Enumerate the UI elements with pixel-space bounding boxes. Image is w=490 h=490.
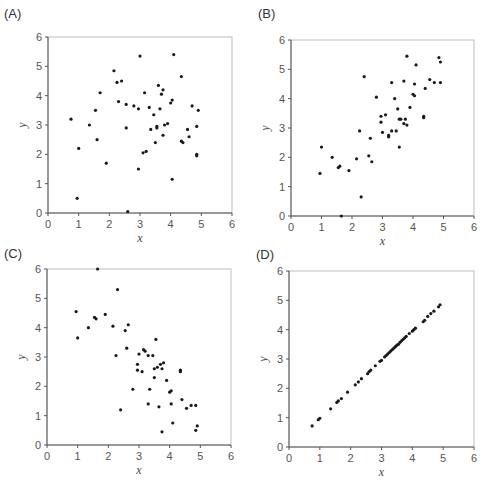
- data-point: [191, 104, 194, 107]
- data-point: [76, 336, 79, 339]
- data-point: [160, 93, 163, 96]
- data-point: [156, 366, 159, 369]
- data-point: [413, 82, 416, 85]
- x-tick-label: 2: [348, 452, 354, 464]
- data-point: [186, 128, 189, 131]
- panel-b: (B)01234560123456xy: [258, 6, 477, 248]
- panel-label: (A): [4, 6, 21, 21]
- data-point: [126, 210, 129, 213]
- x-tick-label: 0: [44, 450, 50, 462]
- data-point: [399, 118, 402, 121]
- y-tick-label: 0: [35, 439, 41, 451]
- data-point: [331, 156, 334, 159]
- x-tick-label: 6: [228, 450, 234, 462]
- data-point: [136, 363, 139, 366]
- data-point: [165, 379, 168, 382]
- data-point: [433, 81, 436, 84]
- data-point: [374, 364, 377, 367]
- data-point: [76, 197, 79, 200]
- data-point: [426, 315, 429, 318]
- x-tick-label: 6: [229, 218, 235, 230]
- y-tick-label: 1: [35, 410, 41, 422]
- data-point: [408, 332, 411, 335]
- data-point: [161, 134, 164, 137]
- x-axis-label: x: [136, 231, 143, 245]
- data-point: [370, 160, 373, 163]
- y-tick-label: 0: [279, 210, 285, 222]
- data-point: [179, 370, 182, 373]
- data-point: [311, 424, 314, 427]
- x-tick-label: 1: [75, 450, 81, 462]
- data-point: [137, 352, 140, 355]
- data-point: [125, 103, 128, 106]
- data-point: [320, 145, 323, 148]
- data-point: [125, 347, 128, 350]
- data-point: [414, 327, 417, 330]
- data-point: [346, 391, 349, 394]
- y-axis-label: y: [258, 125, 272, 132]
- data-point: [111, 325, 114, 328]
- x-tick-label: 3: [137, 218, 143, 230]
- data-point: [96, 267, 99, 270]
- data-point: [140, 370, 143, 373]
- x-tick-label: 2: [349, 221, 355, 233]
- x-axis-label: x: [135, 463, 142, 477]
- data-point: [120, 79, 123, 82]
- data-point: [162, 361, 165, 364]
- data-point: [402, 122, 405, 125]
- data-point: [329, 407, 332, 410]
- data-point: [112, 69, 115, 72]
- y-tick-label: 3: [35, 351, 41, 363]
- data-point: [114, 354, 117, 357]
- data-point: [413, 94, 416, 97]
- data-point: [408, 106, 411, 109]
- panel-d: (D)01234560123456xy: [256, 247, 477, 479]
- data-point: [390, 81, 393, 84]
- data-point: [116, 288, 119, 291]
- data-point: [367, 154, 370, 157]
- data-point: [355, 157, 358, 160]
- data-point: [438, 303, 441, 306]
- data-point: [185, 407, 188, 410]
- data-point: [381, 131, 384, 134]
- data-point: [148, 106, 151, 109]
- y-tick-label: 4: [277, 324, 283, 336]
- x-tick-label: 5: [197, 450, 203, 462]
- y-tick-label: 3: [279, 122, 285, 134]
- data-point: [77, 147, 80, 150]
- data-point: [166, 122, 169, 125]
- data-point: [141, 151, 144, 154]
- data-point: [143, 91, 146, 94]
- plot-frame: [48, 37, 232, 213]
- data-point: [158, 107, 161, 110]
- data-point: [125, 126, 128, 129]
- data-point: [318, 172, 321, 175]
- data-point: [195, 125, 198, 128]
- data-point: [119, 408, 122, 411]
- y-tick-label: 6: [35, 263, 41, 275]
- data-point: [393, 97, 396, 100]
- data-point: [171, 98, 174, 101]
- data-point: [159, 363, 162, 366]
- data-point: [414, 63, 417, 66]
- data-point: [153, 367, 156, 370]
- data-point: [95, 138, 98, 141]
- data-point: [395, 129, 398, 132]
- data-point: [369, 137, 372, 140]
- data-point: [340, 214, 343, 217]
- y-tick-label: 6: [277, 265, 283, 277]
- x-tick-label: 4: [167, 450, 173, 462]
- data-point: [354, 383, 357, 386]
- y-tick-label: 2: [279, 151, 285, 163]
- data-point: [387, 134, 390, 137]
- data-point: [157, 84, 160, 87]
- data-point: [347, 169, 350, 172]
- y-tick-label: 0: [277, 441, 283, 453]
- data-point: [171, 178, 174, 181]
- panel-label: (B): [258, 6, 275, 21]
- data-point: [194, 429, 197, 432]
- data-point: [358, 129, 361, 132]
- data-point: [132, 104, 135, 107]
- data-point: [396, 107, 399, 110]
- data-point: [171, 421, 174, 424]
